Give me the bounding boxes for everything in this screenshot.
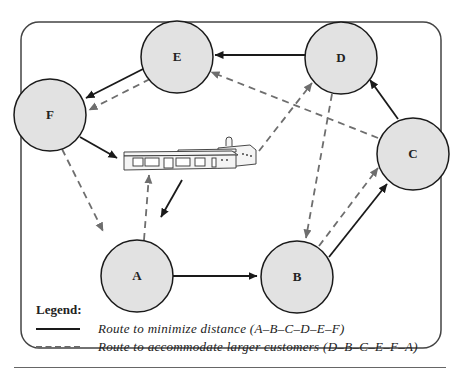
dashed-line-swatch — [36, 346, 80, 348]
node-D: D — [305, 22, 377, 94]
warehouse-icon — [124, 137, 256, 170]
node-E: E — [141, 21, 213, 93]
node-label: B — [293, 269, 302, 284]
node-label: D — [336, 50, 345, 65]
node-F: F — [14, 79, 86, 151]
node-label: C — [408, 146, 417, 161]
legend-label: Route to accommodate larger customers (D… — [98, 339, 418, 355]
node-label: E — [173, 49, 182, 64]
legend-label: Route to minimize distance (A–B–C–D–E–F) — [98, 321, 345, 337]
solid-line-swatch — [36, 328, 80, 330]
legend: Legend: Route to minimize distance (A–B–… — [36, 302, 436, 356]
node-C: C — [377, 118, 449, 190]
legend-item-dashed: Route to accommodate larger customers (D… — [36, 338, 436, 356]
legend-title: Legend: — [36, 302, 436, 318]
diagram-frame — [21, 22, 441, 348]
bottom-divider — [14, 367, 446, 368]
node-label: A — [132, 268, 142, 283]
node-label: F — [46, 107, 54, 122]
legend-item-solid: Route to minimize distance (A–B–C–D–E–F) — [36, 320, 436, 338]
